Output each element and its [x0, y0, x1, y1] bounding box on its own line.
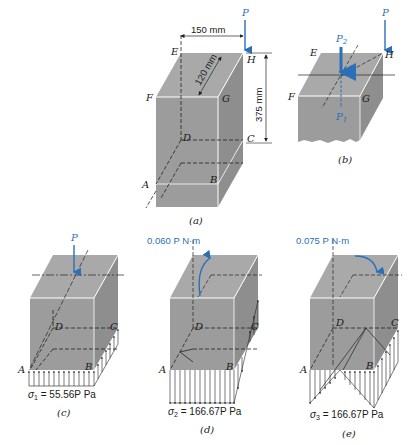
stress-label-sigma2: σ2 = 166.67P Pa: [168, 406, 242, 418]
panel-d: 0.060 P N·m: [147, 235, 262, 435]
corner-g: G: [362, 93, 370, 104]
load-label-p2: P2: [335, 33, 348, 46]
panel-c: P D C A B σ: [17, 232, 125, 418]
stress-label-sigma3: σ3 = 166.67P Pa: [310, 409, 384, 421]
corner-a: A: [158, 364, 166, 375]
corner-a: A: [141, 179, 149, 190]
corner-f: F: [145, 92, 154, 103]
caption-b: (b): [338, 154, 352, 165]
corner-c: C: [247, 133, 255, 144]
caption-c: (c): [57, 407, 71, 418]
eccentric-load-diagram: 150 mm 120 mm 375 mm P E H F G D C A B (…: [0, 0, 416, 445]
panel-e: 0.075 P N·m: [296, 235, 402, 439]
moment-label: 0.060 P N·m: [147, 235, 200, 246]
corner-h: H: [384, 49, 394, 60]
corner-b: B: [365, 360, 373, 371]
corner-d: D: [182, 132, 191, 143]
corner-b: B: [209, 174, 217, 185]
load-label-p: P: [381, 7, 389, 18]
corner-b: B: [225, 361, 233, 372]
corner-c: C: [391, 317, 399, 328]
caption-d: (d): [200, 424, 214, 435]
corner-a: A: [17, 364, 25, 375]
corner-f: F: [287, 91, 296, 102]
corner-b: B: [84, 361, 92, 372]
caption-a: (a): [189, 215, 203, 226]
corner-h: H: [246, 54, 256, 65]
corner-e: E: [170, 46, 179, 57]
panel-b: P P2 P1 E H F G (b): [287, 7, 395, 165]
dim-width-label: 150 mm: [191, 24, 225, 35]
corner-d: D: [54, 321, 63, 332]
dim-height-label: 375 mm: [253, 88, 264, 122]
moment-label: 0.075 P N·m: [296, 235, 349, 246]
corner-d: D: [335, 317, 344, 328]
corner-c: C: [251, 321, 259, 332]
corner-e: E: [309, 47, 318, 58]
corner-a: A: [299, 364, 307, 375]
corner-g: G: [222, 93, 230, 104]
caption-e: (e): [342, 428, 356, 439]
load-label-p: P: [241, 7, 249, 18]
corner-c: C: [110, 321, 118, 332]
load-label-p: P: [70, 232, 78, 243]
panel-a: 150 mm 120 mm 375 mm P E H F G D C A B (…: [141, 7, 272, 226]
stress-label-sigma1: σ1 = 55.56P Pa: [28, 389, 96, 401]
corner-d: D: [194, 321, 203, 332]
